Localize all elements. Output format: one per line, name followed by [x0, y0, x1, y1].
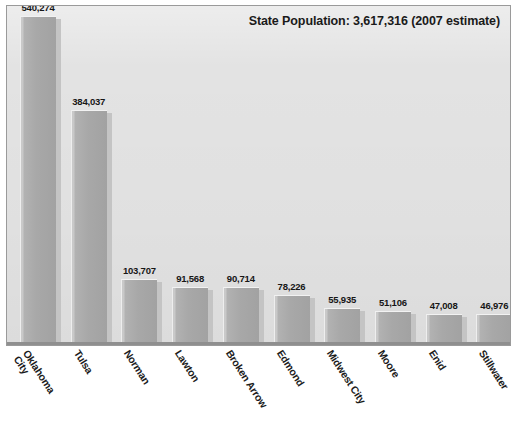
bar-midwest-city[interactable]: 55,935: [324, 308, 360, 342]
x-tick-label-line: Norman: [122, 347, 153, 386]
bar-lawton[interactable]: 91,568: [172, 287, 208, 342]
bars-layer: 540,274384,037103,70791,56890,71478,2265…: [7, 6, 510, 342]
x-tick-label-line: Lawton: [173, 347, 202, 383]
x-tick-label-lawton: Lawton: [173, 348, 201, 384]
bar-rect: [71, 110, 107, 342]
x-tick-label-enid: Enid: [427, 348, 448, 372]
bar-rect: [426, 314, 462, 342]
bar-oklahoma-city[interactable]: 540,274: [20, 16, 56, 342]
bar-rect: [20, 16, 56, 342]
x-axis-labels: OklahomaCityTulsaNormanLawtonBroken Arro…: [6, 348, 511, 428]
bar-edmond[interactable]: 78,226: [274, 295, 310, 342]
bar-value-label: 91,568: [176, 273, 204, 284]
bar-norman[interactable]: 103,707: [121, 279, 157, 342]
x-tick-label-edmond: Edmond: [275, 348, 306, 388]
x-tick-label-tulsa: Tulsa: [72, 348, 95, 375]
bar-rect: [476, 314, 511, 342]
population-bar-chart: State Population: 3,617,316 (2007 estima…: [0, 0, 519, 429]
x-axis-line: [7, 342, 510, 345]
x-tick-label-stillwater: Stillwater: [477, 348, 510, 391]
bar-tulsa[interactable]: 384,037: [71, 110, 107, 342]
bar-value-label: 78,226: [278, 281, 306, 292]
x-tick-label-line: Edmond: [274, 347, 306, 388]
x-tick-label-broken-arrow: Broken Arrow: [224, 348, 269, 410]
bar-value-label: 103,707: [123, 265, 156, 276]
x-tick-label-line: Midwest City: [325, 347, 369, 405]
bar-value-label: 51,106: [379, 297, 407, 308]
x-tick-label-moore: Moore: [376, 348, 401, 379]
x-tick-label-midwest-city: Midwest City: [325, 348, 367, 406]
bar-value-label: 47,008: [430, 300, 458, 311]
bar-rect: [223, 287, 259, 342]
bar-value-label: 46,976: [480, 300, 508, 311]
chart-title: State Population: 3,617,316 (2007 estima…: [249, 14, 500, 28]
bar-rect: [324, 308, 360, 342]
bar-value-label: 540,274: [22, 5, 55, 13]
bar-rect: [172, 287, 208, 342]
x-tick-label-line: Tulsa: [71, 347, 95, 375]
bar-rect: [375, 311, 411, 342]
x-tick-label-line: Broken Arrow: [224, 347, 270, 409]
bar-value-label: 55,935: [328, 294, 356, 305]
x-tick-label-line: Moore: [376, 347, 403, 379]
bar-rect: [274, 295, 310, 342]
x-tick-label-oklahoma-city: OklahomaCity: [12, 348, 56, 401]
bar-stillwater[interactable]: 46,976: [476, 314, 511, 342]
bar-broken-arrow[interactable]: 90,714: [223, 287, 259, 342]
x-tick-label-norman: Norman: [123, 348, 153, 386]
bar-value-label: 90,714: [227, 273, 255, 284]
bar-rect: [121, 279, 157, 342]
x-tick-label-line: Enid: [426, 347, 448, 372]
plot-area: State Population: 3,617,316 (2007 estima…: [6, 5, 511, 346]
x-tick-label-line: Stillwater: [477, 347, 511, 391]
bar-enid[interactable]: 47,008: [426, 314, 462, 342]
bar-value-label: 384,037: [72, 96, 105, 107]
bar-moore[interactable]: 51,106: [375, 311, 411, 342]
